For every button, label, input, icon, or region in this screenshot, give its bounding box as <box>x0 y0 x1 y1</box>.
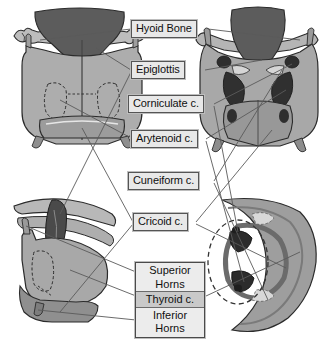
corniculate-superior-lower <box>234 285 242 292</box>
cricoid-cartilage-anterior <box>40 116 125 138</box>
label-inferior-horns-line1[interactable]: Inferior <box>136 308 204 323</box>
label-cricoid[interactable]: Cricoid c. <box>133 213 188 231</box>
label-corniculate[interactable]: Corniculate c. <box>128 95 204 113</box>
label-hyoid-bone[interactable]: Hyoid Bone <box>131 20 197 38</box>
label-superior-horns-line2[interactable]: Horns <box>136 278 204 292</box>
cricoarytenoid-nodule-right <box>279 109 289 123</box>
label-stack-thyroid-group[interactable]: Superior Horns Thyroid c. Inferior Horns <box>135 262 205 338</box>
label-epiglottis[interactable]: Epiglottis <box>131 61 185 79</box>
label-cuneiform[interactable]: Cuneiform c. <box>128 172 199 190</box>
label-superior-horns-line1[interactable]: Superior <box>136 263 204 278</box>
label-inferior-horns-line2[interactable]: Horns <box>136 322 204 337</box>
superior-horn-left <box>26 34 31 48</box>
label-arytenoid[interactable]: Arytenoid c. <box>131 130 198 148</box>
label-thyroid[interactable]: Thyroid c. <box>136 291 204 308</box>
